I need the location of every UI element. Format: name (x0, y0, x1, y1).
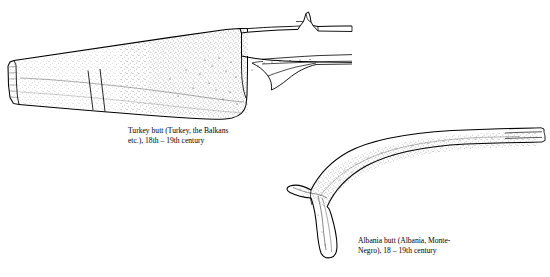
caption-turkey-butt: Turkey butt (Turkey, the Balkans etc.), … (128, 126, 228, 145)
caption-turkey-line-1: Turkey butt (Turkey, the Balkans (128, 126, 228, 136)
turkey-butt-drawing (0, 12, 352, 130)
caption-albania-line-1: Albania butt (Albania, Monte- (358, 236, 450, 246)
illustration-canvas (0, 0, 550, 277)
figure-stage: Turkey butt (Turkey, the Balkans etc.), … (0, 0, 550, 277)
caption-turkey-line-2: etc.), 18th – 19th century (128, 136, 228, 146)
caption-albania-line-2: Negro), 18 – 19th century (358, 246, 450, 256)
caption-albania-butt: Albania butt (Albania, Monte- Negro), 18… (358, 236, 450, 255)
